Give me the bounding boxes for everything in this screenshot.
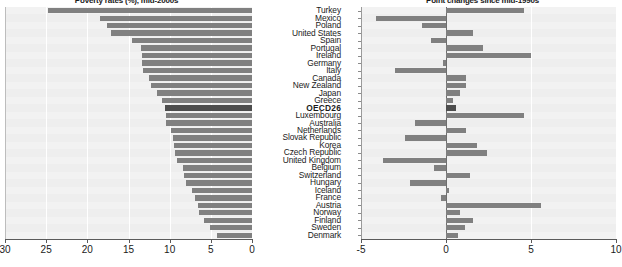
axis-tick-label: -5: [357, 244, 366, 255]
bar: [446, 83, 466, 88]
axis-minor-tick: [358, 86, 361, 87]
bar: [446, 113, 524, 118]
bar: [198, 203, 252, 208]
bar: [446, 150, 487, 155]
axis-minor-tick: [358, 235, 361, 236]
axis-minor-tick: [358, 213, 361, 214]
axis-minor-tick: [358, 145, 361, 146]
bar: [210, 225, 252, 230]
chart-row-band: [361, 44, 616, 51]
gridline: [46, 7, 47, 239]
chart-row-band: [361, 82, 616, 89]
axis-minor-tick: [358, 26, 361, 27]
axis-tick-label: 10: [610, 244, 621, 255]
axis-minor-tick: [358, 175, 361, 176]
bar: [446, 75, 466, 80]
bar: [184, 173, 252, 178]
axis-tick: [531, 239, 532, 243]
left-axis-spine: [5, 7, 6, 239]
chart-row-band: [361, 172, 616, 179]
axis-minor-tick: [358, 138, 361, 139]
chart-row-band: [361, 127, 616, 134]
axis-minor-tick: [358, 11, 361, 12]
chart-row-band: [361, 29, 616, 36]
bar: [141, 45, 252, 50]
bar: [446, 233, 458, 238]
chart-row-band: [361, 74, 616, 81]
axis-minor-tick: [358, 168, 361, 169]
axis-tick: [170, 239, 171, 243]
bar: [195, 195, 252, 200]
bar: [422, 23, 446, 28]
bar: [192, 188, 252, 193]
bar: [132, 38, 252, 43]
bar: [171, 128, 252, 133]
bar: [446, 90, 460, 95]
bar: [446, 203, 541, 208]
axis-tick-label: 5: [528, 244, 534, 255]
right-plot-area: [361, 7, 616, 239]
bar: [415, 120, 446, 125]
bar: [165, 105, 252, 110]
axis-minor-tick: [358, 63, 361, 64]
bar: [183, 165, 252, 170]
axis-tick: [46, 239, 47, 243]
right-x-axis-line: [361, 239, 616, 240]
bar: [166, 120, 252, 125]
bar: [434, 165, 446, 170]
axis-tick: [446, 239, 447, 243]
bar: [410, 180, 446, 185]
bar: [217, 233, 252, 238]
axis-tick-label: 30: [0, 244, 11, 255]
axis-tick: [129, 239, 130, 243]
bar: [446, 210, 460, 215]
bar: [395, 68, 446, 73]
axis-tick: [616, 239, 617, 243]
axis-minor-tick: [358, 101, 361, 102]
axis-tick-label: 15: [123, 244, 134, 255]
bar: [142, 60, 252, 65]
chart-row-band: [361, 179, 616, 186]
axis-minor-tick: [358, 116, 361, 117]
gridline: [616, 7, 617, 239]
bar: [446, 188, 449, 193]
bar: [446, 143, 477, 148]
bar: [441, 195, 446, 200]
bar: [111, 30, 252, 35]
axis-minor-tick: [358, 190, 361, 191]
axis-minor-tick: [358, 198, 361, 199]
axis-minor-tick: [358, 78, 361, 79]
bar: [186, 180, 252, 185]
bar: [446, 128, 466, 133]
bar: [383, 158, 446, 163]
bar: [173, 135, 252, 140]
chart-row-band: [361, 149, 616, 156]
bar: [166, 113, 252, 118]
bar: [100, 16, 252, 21]
chart-row-band: [361, 104, 616, 111]
axis-tick-label: 20: [82, 244, 93, 255]
axis-minor-tick: [358, 108, 361, 109]
axis-minor-tick: [358, 93, 361, 94]
chart-row-band: [361, 194, 616, 201]
chart-row-band: [361, 22, 616, 29]
axis-minor-tick: [358, 33, 361, 34]
left-plot-area: [5, 7, 252, 239]
bar: [405, 135, 446, 140]
chart-row-band: [361, 37, 616, 44]
axis-tick: [361, 239, 362, 243]
axis-minor-tick: [358, 160, 361, 161]
axis-tick-label: 25: [41, 244, 52, 255]
axis-minor-tick: [358, 228, 361, 229]
bar: [143, 68, 252, 73]
bar: [174, 143, 252, 148]
axis-tick: [87, 239, 88, 243]
bar: [107, 23, 252, 28]
bar: [443, 60, 446, 65]
left-chart-title: Poverty rates (%), mid-2000s: [0, 0, 253, 5]
country-label-list: TurkeyMexicoPolandUnited StatesSpainPort…: [253, 7, 345, 239]
country-labels: TurkeyMexicoPolandUnited StatesSpainPort…: [253, 0, 345, 267]
gridline: [87, 7, 88, 239]
chart-row-band: [361, 209, 616, 216]
chart-row-band: [361, 232, 616, 239]
